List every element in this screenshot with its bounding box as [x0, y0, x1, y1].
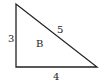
side-label-vertical: 3 — [8, 33, 14, 44]
triangle-name-label: B — [36, 38, 43, 49]
side-label-horizontal: 4 — [53, 71, 59, 82]
triangle-diagram: 3 B 5 4 — [0, 0, 100, 82]
side-label-hypotenuse: 5 — [57, 24, 63, 35]
triangle-b — [16, 4, 97, 67]
